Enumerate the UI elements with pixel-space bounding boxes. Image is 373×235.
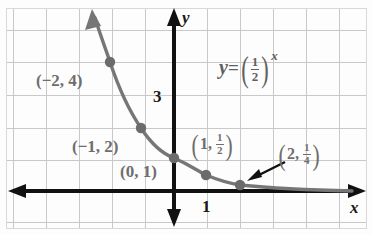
- figure-border: [7, 9, 367, 229]
- paren-close: ): [261, 51, 268, 87]
- equation-base-fraction: 12: [251, 55, 260, 84]
- y-axis-label: y: [182, 9, 190, 26]
- y-axis-tick-label-3: 3: [153, 88, 162, 105]
- point-label-2-quarter: (2, 14): [277, 140, 321, 170]
- point-label-1-half-x: 1: [200, 135, 208, 152]
- point-neg1-2: [136, 123, 146, 133]
- grid-lines: [6, 8, 366, 228]
- paren-open: (: [278, 140, 285, 170]
- point-label-2-quarter-x: 2: [287, 145, 295, 162]
- y-axis: [167, 8, 181, 227]
- paren-open: (: [241, 51, 248, 87]
- point-label-1-half-fraction: 12: [216, 132, 224, 156]
- point-label-0-1: (0, 1): [120, 163, 157, 180]
- paren-close: ): [225, 130, 232, 160]
- point-2-quarter: [235, 180, 245, 190]
- exponential-decay-graph-figure: y=(12)x (−2, 4) (−1, 2) (0, 1) (1, 12) (…: [0, 0, 373, 235]
- graph-canvas: [0, 0, 373, 235]
- equation-exponent: x: [271, 48, 278, 63]
- point-1-half: [201, 170, 211, 180]
- x-axis-tick-label-1: 1: [202, 198, 211, 215]
- x-axis-label: x: [350, 199, 359, 216]
- point-label-neg1-2: (−1, 2): [72, 138, 119, 155]
- point-label-1-half: (1, 12): [190, 130, 234, 160]
- paren-close: ): [312, 140, 319, 170]
- point-label-neg2-4: (−2, 4): [36, 72, 83, 89]
- comma: ,: [295, 145, 303, 162]
- equation-lhs: y: [219, 56, 228, 78]
- comma: ,: [208, 135, 216, 152]
- point-label-2-quarter-fraction: 14: [303, 142, 311, 166]
- equation-operator: =: [228, 57, 239, 78]
- point-0-1: [169, 153, 179, 163]
- paren-open: (: [191, 130, 198, 160]
- equation-annotation: y=(12)x: [219, 52, 278, 88]
- point-neg2-4: [105, 57, 115, 67]
